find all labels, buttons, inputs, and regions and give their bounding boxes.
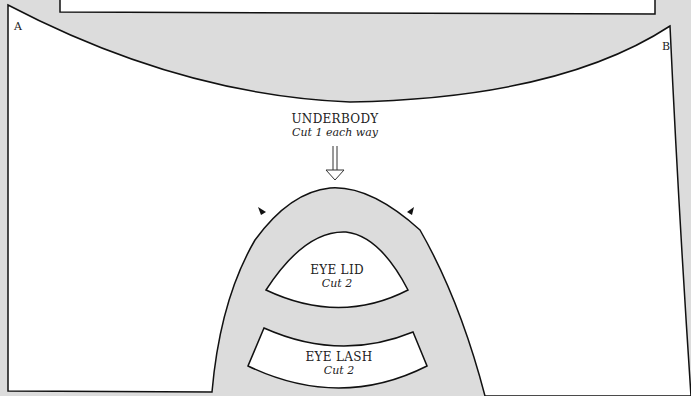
- underbody-instruction: Cut 1 each way: [291, 126, 378, 139]
- eye-lash-label: EYE LASH Cut 2: [306, 350, 373, 377]
- corner-label-a: A: [14, 20, 22, 33]
- eye-lid-instruction: Cut 2: [310, 277, 364, 290]
- underbody-label: UNDERBODY Cut 1 each way: [291, 112, 378, 139]
- eye-lid-label: EYE LID Cut 2: [310, 263, 364, 290]
- corner-label-b: B: [662, 40, 670, 53]
- eye-lash-title: EYE LASH: [306, 350, 373, 364]
- underbody-title: UNDERBODY: [291, 112, 378, 126]
- pattern-drawing: [0, 0, 691, 396]
- top-piece-outline: [60, 0, 655, 14]
- eye-lash-instruction: Cut 2: [306, 364, 373, 377]
- underbody-piece: [8, 5, 691, 396]
- eye-lid-title: EYE LID: [310, 263, 364, 277]
